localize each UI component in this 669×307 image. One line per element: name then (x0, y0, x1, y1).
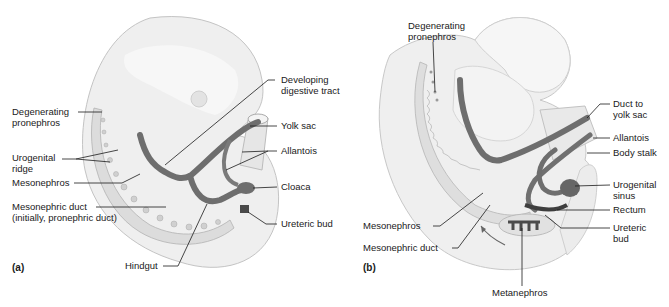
label-line: pronephros (12, 117, 69, 128)
label-cloaca: Cloaca (281, 181, 311, 192)
label-line: Urogenital (12, 152, 55, 163)
label-mesonephric-duct: Mesonephric duct (363, 242, 438, 253)
label-line: pronephros (408, 31, 465, 42)
panel-a-tag: (a) (12, 262, 24, 273)
label-rectum: Rectum (613, 204, 646, 215)
label-duct-to-yolk-sac: Duct to yolk sac (613, 98, 647, 120)
label-ureteric-bud: Ureteric bud (613, 222, 646, 244)
label-line: Ureteric (613, 222, 646, 233)
label-line: yolk sac (613, 109, 647, 120)
label-allantois: Allantois (281, 145, 317, 156)
panel-a: Degenerating pronephros Urogenital ridge… (0, 0, 335, 307)
panel-b: Degenerating pronephros Duct to yolk sac… (335, 0, 669, 307)
label-line: Duct to (613, 98, 647, 109)
label-line: bud (613, 233, 646, 244)
label-mesonephros: Mesonephros (363, 220, 421, 231)
label-developing-digestive-tract: Developing digestive tract (281, 74, 340, 96)
label-urogenital-sinus: Urogenital sinus (613, 179, 656, 201)
label-hindgut: Hindgut (125, 260, 158, 271)
label-line: digestive tract (281, 85, 340, 96)
label-urogenital-ridge: Urogenital ridge (12, 152, 55, 174)
label-allantois: Allantois (613, 132, 649, 143)
label-degenerating-pronephros: Degenerating pronephros (408, 20, 465, 42)
label-line: Degenerating (12, 106, 69, 117)
label-yolk-sac: Yolk sac (281, 120, 316, 131)
label-mesonephros: Mesonephros (12, 177, 70, 188)
label-line: Degenerating (408, 20, 465, 31)
label-line: Mesonephric duct (12, 201, 117, 212)
label-mesonephric-duct: Mesonephric duct (initially, pronephric … (12, 201, 117, 223)
label-line: ridge (12, 163, 55, 174)
label-metanephros: Metanephros (492, 287, 547, 298)
label-ureteric-bud: Ureteric bud (281, 218, 333, 229)
label-body-stalk: Body stalk (613, 147, 657, 158)
label-degenerating-pronephros: Degenerating pronephros (12, 106, 69, 128)
panel-b-tag: (b) (363, 262, 376, 273)
label-line: Urogenital (613, 179, 656, 190)
label-line: sinus (613, 190, 656, 201)
label-line: Developing (281, 74, 340, 85)
label-line: (initially, pronephric duct) (12, 212, 117, 223)
